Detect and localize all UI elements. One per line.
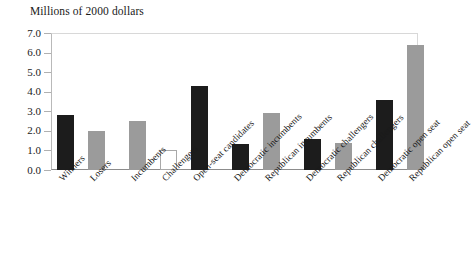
y-axis-tick-label: 2.0 xyxy=(14,125,41,136)
y-axis-tick xyxy=(44,72,51,73)
y-axis-tick-label: 7.0 xyxy=(14,28,41,39)
y-axis-tick xyxy=(44,33,51,34)
y-axis-tick-label: 1.0 xyxy=(14,145,41,156)
y-axis-tick xyxy=(44,92,51,93)
y-axis-tick-label: 4.0 xyxy=(14,86,41,97)
y-axis-tick xyxy=(44,53,51,54)
x-axis-labels: WinnersLosersIncumbentsChallengersOpen-s… xyxy=(0,170,445,277)
y-axis-tick-label: 6.0 xyxy=(14,47,41,58)
bar xyxy=(191,86,208,170)
y-axis-tick xyxy=(44,111,51,112)
chart-axis-title: Millions of 2000 dollars xyxy=(30,5,144,17)
y-axis-tick xyxy=(44,131,51,132)
y-axis-tick-label: 3.0 xyxy=(14,106,41,117)
y-axis-tick-label: 5.0 xyxy=(14,67,41,78)
y-axis-tick xyxy=(44,150,51,151)
